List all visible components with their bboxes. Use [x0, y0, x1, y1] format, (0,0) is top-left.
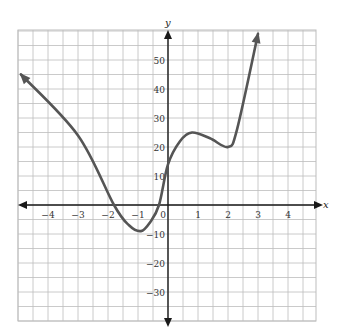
y-tick-label: 40 [154, 85, 166, 95]
y-tick-label: −20 [146, 259, 165, 269]
x-tick-label: 0 [160, 210, 166, 220]
y-tick-label: 30 [154, 114, 166, 124]
x-tick-label: 3 [255, 210, 261, 220]
x-axis-label: x [323, 199, 329, 210]
grid-lines [18, 30, 316, 321]
x-tick-label: 4 [285, 210, 291, 220]
function-curve [20, 32, 261, 231]
y-tick-label: −10 [146, 230, 165, 240]
x-tick-label: −1 [131, 210, 144, 220]
x-axis-left-arrow-icon [18, 201, 27, 209]
y-tick-label: −30 [146, 288, 165, 298]
y-tick-label: 50 [154, 56, 166, 66]
function-graph: −4−3−2−101234−30−20−101020304050 x y [0, 0, 346, 336]
y-tick-label: 20 [154, 143, 166, 153]
x-tick-label: −3 [71, 210, 85, 220]
x-axis-right-arrow-icon [314, 201, 323, 209]
x-tick-label: 1 [195, 210, 201, 220]
x-tick-label: −4 [41, 210, 55, 220]
x-tick-label: 2 [225, 210, 231, 220]
x-tick-label: −2 [101, 210, 114, 220]
y-axis-label: y [164, 17, 171, 28]
y-axis-down-arrow-icon [164, 318, 172, 327]
